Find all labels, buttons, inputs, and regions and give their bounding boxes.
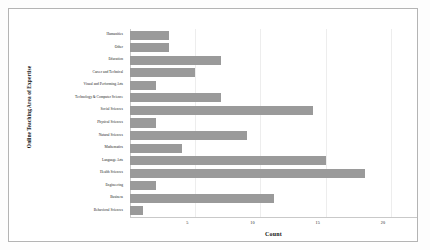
y-tick-label: Engineering (105, 184, 123, 188)
bar (130, 118, 156, 127)
y-tick-label: Humanities (106, 33, 123, 37)
bar (130, 194, 274, 203)
bar (130, 43, 169, 52)
bar-fill (130, 56, 221, 65)
y-tick-label: Health Sciences (100, 171, 123, 175)
figure-border: Online Teaching Area of Expertise Humani… (8, 8, 418, 242)
bar-fill (130, 68, 195, 77)
y-tick-label: Visual and Performing Arts (84, 83, 123, 87)
bar (130, 68, 195, 77)
bar-fill (130, 81, 156, 90)
bar-series (130, 29, 417, 217)
bar (130, 106, 313, 115)
y-tick-label: Social Sciences (101, 108, 123, 112)
chart-screenshot: Online Teaching Area of Expertise Humani… (0, 0, 430, 250)
x-axis-title: Count (130, 231, 417, 237)
x-tick-label: 5 (177, 221, 197, 225)
bar-fill (130, 106, 313, 115)
y-tick-label: Physical Sciences (97, 121, 123, 125)
bar (130, 131, 247, 140)
bar (130, 156, 326, 165)
bar (130, 169, 365, 178)
x-tick-label: 10 (242, 221, 262, 225)
bar-fill (130, 156, 326, 165)
bar (130, 31, 169, 40)
bar (130, 181, 156, 190)
bar-fill (130, 206, 143, 215)
y-tick-label: Business (110, 196, 123, 200)
bar-fill (130, 131, 247, 140)
y-tick-label: Career and Technical (93, 71, 123, 75)
y-tick-label: Natural Sciences (99, 134, 123, 138)
y-axis-tick-labels: HumanitiesOtherEducationCareer and Techn… (29, 29, 127, 217)
bar-fill (130, 144, 182, 153)
bar-fill (130, 31, 169, 40)
x-tick-label: 20 (373, 221, 393, 225)
bar-fill (130, 194, 274, 203)
bar-fill (130, 43, 169, 52)
bar-fill (130, 169, 365, 178)
x-tick-label: 15 (308, 221, 328, 225)
bar (130, 81, 156, 90)
y-tick-label: Mathematics (104, 146, 123, 150)
bar-fill (130, 93, 221, 102)
y-tick-label: Language Arts (102, 159, 123, 163)
y-tick-label: Behavioral Sciences (94, 209, 123, 213)
y-tick-label: Education (108, 58, 123, 62)
plot-area (130, 29, 417, 217)
bar (130, 56, 221, 65)
bar (130, 144, 182, 153)
bar-fill (130, 181, 156, 190)
bar (130, 206, 143, 215)
bar-fill (130, 118, 156, 127)
bar (130, 93, 221, 102)
y-tick-label: Technology & Computer Science (75, 96, 123, 100)
y-tick-label: Other (115, 46, 123, 50)
x-axis-line (130, 217, 417, 218)
